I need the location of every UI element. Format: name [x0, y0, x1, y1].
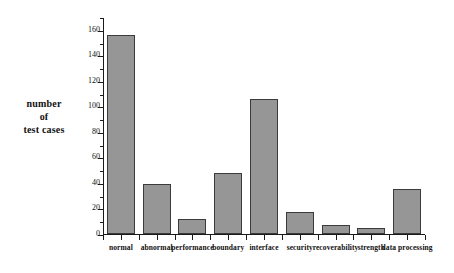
y-axis-minor-tick-mark — [100, 146, 103, 147]
x-axis-center-tick — [300, 235, 301, 240]
x-axis-category-label: data processing — [382, 243, 433, 252]
y-axis-tick: 140 — [103, 56, 104, 57]
y-axis-title: number of test cases — [8, 97, 80, 136]
y-axis-line — [103, 18, 104, 235]
y-axis-tick-label: 140 — [88, 50, 100, 59]
bar — [250, 99, 278, 234]
y-axis-minor-tick-mark — [100, 44, 103, 45]
y-axis-tick-label: 80 — [92, 127, 100, 136]
y-axis-tick: 100 — [103, 107, 104, 108]
x-axis-boundary-tick — [246, 235, 247, 240]
y-axis-minor-tick-mark — [100, 120, 103, 121]
y-axis-title-line-2: of — [8, 110, 80, 123]
x-axis-boundary-tick — [318, 235, 319, 240]
y-axis-tick-label: 20 — [92, 203, 100, 212]
x-axis-boundary-tick — [389, 235, 390, 240]
x-axis-center-tick — [121, 235, 122, 240]
y-axis-tick: 80 — [103, 133, 104, 134]
x-axis-category-label: normal — [109, 243, 133, 252]
y-axis-minor-tick-mark — [100, 18, 103, 19]
y-axis-tick-label: 0 — [96, 229, 100, 238]
y-axis-tick-label: 40 — [92, 178, 100, 187]
chart-figure: number of test cases 0204060801001201401… — [0, 0, 454, 273]
bar — [357, 228, 385, 234]
y-axis-tick: 120 — [103, 82, 104, 83]
x-axis-center-tick — [192, 235, 193, 240]
x-axis-center-tick — [157, 235, 158, 240]
y-axis-minor-tick-mark — [100, 95, 103, 96]
y-axis-tick: 160 — [103, 31, 104, 32]
x-axis-boundary-tick — [175, 235, 176, 240]
y-axis-minor-tick-mark — [100, 171, 103, 172]
x-axis-boundary-tick — [139, 235, 140, 240]
bar — [286, 212, 314, 234]
y-axis-tick: 40 — [103, 184, 104, 185]
x-axis-category-label: interface — [249, 243, 278, 252]
y-axis-tick-label: 60 — [92, 152, 100, 161]
plot-area: 020406080100120140160 normalabnormalperf… — [103, 18, 425, 235]
x-axis-category-label: security — [287, 243, 313, 252]
x-axis-boundary-tick — [282, 235, 283, 240]
x-axis-category-label: recoverability — [313, 243, 359, 252]
y-axis-tick: 20 — [103, 209, 104, 210]
x-axis-category-label: abnormal — [141, 243, 173, 252]
x-axis-center-tick — [407, 235, 408, 240]
x-axis-boundary-tick — [210, 235, 211, 240]
y-axis-minor-tick-mark — [100, 69, 103, 70]
x-axis-boundary-tick — [425, 235, 426, 240]
y-axis-tick-label: 160 — [88, 25, 100, 34]
bar — [143, 184, 171, 234]
bar — [178, 219, 206, 234]
y-axis-tick: 60 — [103, 158, 104, 159]
y-axis-minor-tick-mark — [100, 197, 103, 198]
x-axis-center-tick — [336, 235, 337, 240]
bar — [393, 189, 421, 234]
y-axis-tick-label: 120 — [88, 76, 100, 85]
x-axis-center-tick — [228, 235, 229, 240]
y-axis-tick-label: 100 — [88, 101, 100, 110]
x-axis-boundary-tick — [103, 235, 104, 240]
x-axis-center-tick — [264, 235, 265, 240]
y-axis-minor-tick-mark — [100, 222, 103, 223]
x-axis-category-label: boundary — [212, 243, 244, 252]
x-axis-labels: normalabnormalperformanceboundaryinterfa… — [103, 243, 425, 263]
bar — [322, 225, 350, 234]
x-axis-boundary-tick — [353, 235, 354, 240]
y-axis-title-line-1: number — [8, 97, 80, 110]
bar — [214, 173, 242, 234]
x-axis-center-tick — [371, 235, 372, 240]
x-axis-category-label: performance — [171, 243, 213, 252]
y-axis-title-line-3: test cases — [8, 123, 80, 136]
bar — [107, 35, 135, 234]
